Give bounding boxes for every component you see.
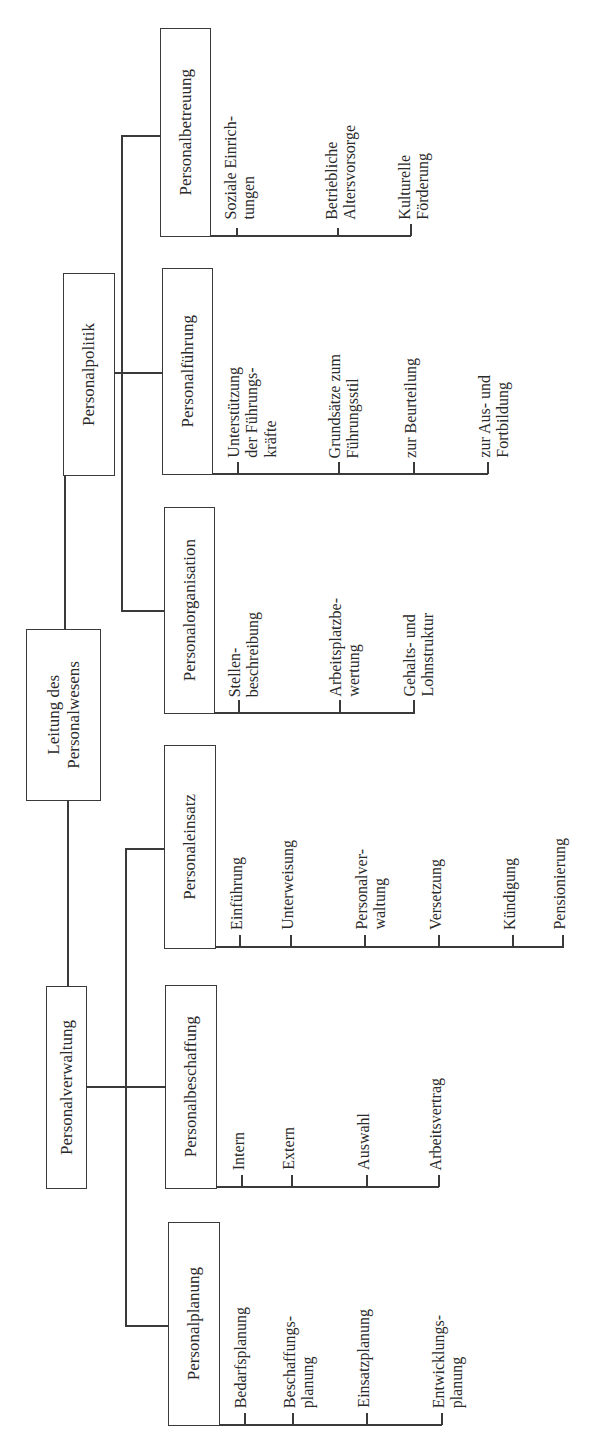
leaf-beschaffungsplanung: Beschaffungs-planung: [281, 1250, 318, 1408]
leaf-auswahl: Auswahl: [355, 1010, 373, 1170]
root-label: Leitung des Personalwesens: [44, 661, 83, 769]
leaf-unterstuetzung-fuehrungskraefte: Unterstützungder Führungs-kräfte: [225, 280, 280, 458]
leaf-personalverwaltung: Personalver-waltung: [353, 770, 390, 930]
leaf-versetzung: Versetzung: [427, 770, 445, 930]
tick: [290, 935, 292, 947]
connector-root-personalverwaltung: [67, 801, 69, 987]
leaf-line: Kulturelle: [396, 153, 414, 220]
leaf-line: Kündigung: [501, 858, 519, 930]
tick: [238, 700, 240, 712]
leaf-line: Personalver-: [353, 849, 371, 930]
leaf-line: Auswahl: [355, 1113, 373, 1170]
connector-to-personalorganisation: [121, 610, 164, 612]
tick: [241, 1175, 243, 1187]
leaf-line: zur Aus- und: [476, 375, 494, 458]
connector-personalverwaltung-horizontal: [87, 1086, 166, 1088]
leaf-line: Förderung: [414, 153, 432, 220]
leaf-line: Arbeitsplatzbe-: [327, 598, 345, 697]
baseline-personalorganisation: [215, 712, 415, 714]
leaf-line: waltung: [371, 849, 389, 930]
tick: [237, 462, 239, 474]
leaf-line: Führungsstil: [344, 354, 362, 458]
leaf-einsatzplanung: Einsatzplanung: [355, 1250, 373, 1408]
tick: [438, 1175, 440, 1187]
upper-spine: [121, 135, 123, 611]
node-personalpolitik: Personalpolitik: [63, 273, 115, 476]
tick: [512, 935, 514, 947]
leaf-line: Extern: [280, 1127, 298, 1170]
leaf-line: Bedarfsplanung: [232, 1307, 250, 1408]
tick: [364, 935, 366, 947]
tick: [338, 462, 340, 474]
leaf-line: Gehalts- und: [401, 613, 419, 697]
leaf-line: wertung: [345, 598, 363, 697]
leaf-line: Soziale Einrich-: [222, 116, 240, 220]
node-personalfuehrung: Personalführung: [162, 268, 213, 475]
connector-root-personalpolitik: [64, 475, 66, 629]
tick: [413, 700, 415, 712]
leaf-line: tungen: [240, 116, 258, 220]
node-personalbetreuung: Personalbetreuung: [160, 28, 211, 237]
leaf-stellenbeschreibung: Stellen-beschreibung: [226, 520, 263, 697]
personalverwaltung-label: Personalverwaltung: [57, 1020, 77, 1155]
connector-to-personalplanung: [125, 1325, 169, 1327]
leaf-line: Intern: [230, 1132, 248, 1170]
leaf-line: Grundsätze zum: [326, 354, 344, 458]
personalfuehrung-label: Personalführung: [178, 315, 198, 427]
baseline-personalbeschaffung: [217, 1186, 439, 1188]
tick: [236, 228, 238, 236]
connector-to-personalbetreuung: [121, 135, 160, 137]
personalbetreuung-label: Personalbetreuung: [176, 69, 196, 196]
leaf-line: Betriebliche: [323, 125, 341, 220]
node-personaleinsatz: Personaleinsatz: [164, 745, 216, 949]
leaf-soziale-einrichtungen: Soziale Einrich-tungen: [222, 40, 259, 220]
tick: [366, 1175, 368, 1187]
leaf-entwicklungsplanung: Entwicklungs-planung: [430, 1250, 467, 1408]
leaf-line: Unterweisung: [279, 840, 297, 930]
leaf-line: kräfte: [262, 367, 280, 458]
node-personalverwaltung: Personalverwaltung: [46, 986, 87, 1189]
tick: [292, 1413, 294, 1425]
leaf-einfuehrung: Einführung: [228, 770, 246, 930]
leaf-intern: Intern: [230, 1010, 248, 1170]
leaf-bedarfsplanung: Bedarfsplanung: [232, 1250, 250, 1408]
leaf-arbeitsvertrag: Arbeitsvertrag: [427, 1010, 445, 1170]
tick: [438, 935, 440, 947]
personalbeschaffung-label: Personalbeschaffung: [181, 1016, 201, 1157]
leaf-line: Arbeitsvertrag: [427, 1078, 445, 1170]
node-personalbeschaffung: Personalbeschaffung: [165, 985, 217, 1189]
baseline-personalfuehrung: [213, 473, 488, 475]
root-node-leitung-des-personalwesens: Leitung des Personalwesens: [26, 629, 101, 801]
leaf-gehalts-lohnstruktur: Gehalts- undLohnstruktur: [401, 520, 438, 697]
leaf-grundsaetze-fuehrungsstil: Grundsätze zumFührungsstil: [326, 280, 363, 458]
tick: [337, 228, 339, 236]
leaf-line: beschreibung: [244, 612, 262, 697]
root-label-line2: Personalwesens: [64, 661, 84, 769]
leaf-line: Pensionierung: [551, 838, 569, 930]
leaf-line: Einführung: [228, 857, 246, 930]
leaf-line: der Führungs-: [243, 367, 261, 458]
baseline-personalbetreuung: [211, 235, 411, 237]
tick: [291, 1175, 293, 1187]
leaf-line: Beschaffungs-: [281, 1316, 299, 1408]
personalplanung-label: Personalplanung: [184, 1267, 204, 1380]
tick: [410, 224, 412, 236]
node-personalplanung: Personalplanung: [168, 1222, 220, 1426]
node-personalorganisation: Personalorganisation: [164, 507, 215, 714]
leaf-line: Stellen-: [226, 612, 244, 697]
leaf-line: Unterstützung: [225, 367, 243, 458]
leaf-line: Fortbildung: [494, 375, 512, 458]
baseline-personalplanung: [220, 1424, 442, 1426]
leaf-kuendigung: Kündigung: [501, 770, 519, 930]
leaf-unterweisung: Unterweisung: [279, 770, 297, 930]
leaf-pensionierung: Pensionierung: [551, 770, 569, 930]
tick: [239, 935, 241, 947]
tick: [441, 1413, 443, 1425]
leaf-line: planung: [299, 1316, 317, 1408]
leaf-line: Entwicklungs-: [430, 1315, 448, 1408]
tick: [366, 1413, 368, 1425]
leaf-line: planung: [448, 1315, 466, 1408]
leaf-zur-beurteilung: zur Beurteilung: [402, 280, 420, 458]
tick: [339, 700, 341, 712]
leaf-kulturelle-foerderung: KulturelleFörderung: [396, 40, 433, 220]
